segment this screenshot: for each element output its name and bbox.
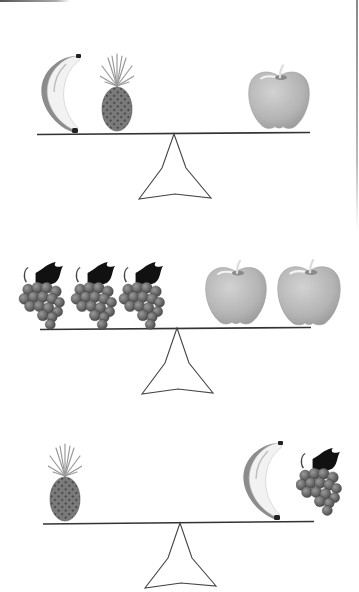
grapes-icon: [119, 262, 164, 330]
grapes-icon: [296, 448, 341, 516]
grapes-icon: [71, 262, 116, 330]
balance-scale-1: [37, 54, 310, 199]
balance-scale-3: [43, 441, 342, 588]
apple-icon: [278, 260, 340, 325]
worksheet-page: [0, 0, 359, 592]
fulcrum-2: [142, 328, 213, 394]
balance-scale-2: [19, 260, 340, 394]
pineapple-icon: [48, 444, 82, 521]
banana-icon: [243, 441, 283, 520]
banana-icon: [41, 54, 81, 133]
apple-icon: [249, 66, 310, 129]
grapes-icon: [19, 262, 64, 330]
beam-3: [43, 522, 314, 525]
fulcrum-1: [139, 134, 211, 199]
beam-2: [40, 328, 311, 330]
pineapple-icon: [100, 54, 134, 131]
apple-icon: [206, 261, 267, 324]
fulcrum-3: [145, 523, 216, 588]
